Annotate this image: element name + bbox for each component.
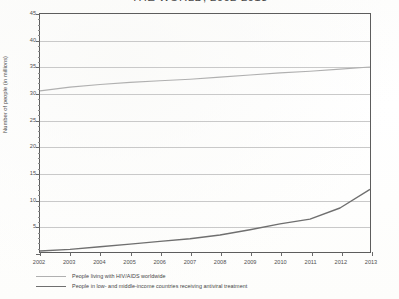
legend-item-label: People in low- and middle-income countri… xyxy=(72,283,247,289)
x-axis-tick-label: 2004 xyxy=(93,259,105,265)
legend-item: People living with HIV/AIDS worldwide xyxy=(36,271,376,281)
y-axis-tick-label: 40 xyxy=(10,37,36,43)
y-axis-tick-label: 35 xyxy=(10,63,36,69)
x-axis-tick-label: 2008 xyxy=(214,259,226,265)
series-line xyxy=(40,67,370,91)
y-axis-tick-label: 15 xyxy=(10,170,36,176)
x-axis-tick xyxy=(40,252,41,256)
x-axis-tick xyxy=(281,252,282,256)
x-axis-tick-label: 2010 xyxy=(274,259,286,265)
x-axis-tick xyxy=(251,252,252,256)
x-axis-tick xyxy=(131,252,132,256)
x-axis-tick xyxy=(161,252,162,256)
legend-item: People in low- and middle-income countri… xyxy=(36,281,376,291)
x-axis-tick-label: 2013 xyxy=(365,259,377,265)
y-axis-tick-label: 20 xyxy=(10,143,36,149)
series-lines xyxy=(40,14,370,253)
plot-area xyxy=(39,13,371,253)
y-axis-title: Number of people (in millions) xyxy=(2,56,8,133)
x-axis-tick-label: 2007 xyxy=(184,259,196,265)
x-axis-tick-label: 2005 xyxy=(123,259,135,265)
chart-title: THE WORLD, 2002-2013 xyxy=(0,0,399,5)
x-axis-tick xyxy=(221,252,222,256)
legend-line-swatch xyxy=(36,276,66,277)
x-axis-tick-label: 2011 xyxy=(305,259,317,265)
series-line xyxy=(40,189,370,250)
x-axis-tick xyxy=(342,252,343,256)
x-axis-tick xyxy=(191,252,192,256)
y-axis-tick-label: 10 xyxy=(10,197,36,203)
y-axis-tick-label: 45 xyxy=(10,10,36,16)
x-axis-tick-label: 2002 xyxy=(33,259,45,265)
x-axis-tick xyxy=(100,252,101,256)
y-axis-tick-label: 5 xyxy=(10,223,36,229)
x-axis-tick xyxy=(70,252,71,256)
y-axis-tick-label: 30 xyxy=(10,90,36,96)
x-axis-tick-label: 2006 xyxy=(153,259,165,265)
y-axis-tick-label: 25 xyxy=(10,117,36,123)
legend-line-swatch xyxy=(36,286,66,287)
chart-legend: People living with HIV/AIDS worldwidePeo… xyxy=(36,271,376,291)
x-axis-tick-label: 2003 xyxy=(63,259,75,265)
legend-item-label: People living with HIV/AIDS worldwide xyxy=(72,273,166,279)
x-axis-tick xyxy=(312,252,313,256)
x-axis-tick xyxy=(372,252,373,256)
x-axis-tick-label: 2009 xyxy=(244,259,256,265)
x-axis-tick-label: 2012 xyxy=(335,259,347,265)
